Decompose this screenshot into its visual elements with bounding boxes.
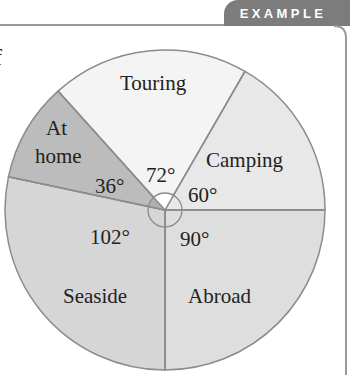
- label-seaside: Seaside: [63, 286, 127, 307]
- angle-seaside: 102°: [90, 227, 130, 248]
- pie-chart: [0, 0, 350, 375]
- label-at-home-line1: At: [46, 118, 67, 139]
- angle-camping: 60°: [188, 185, 217, 206]
- slice-seaside: [5, 177, 165, 370]
- label-camping: Camping: [206, 150, 283, 171]
- label-abroad: Abroad: [188, 286, 251, 307]
- label-touring: Touring: [120, 73, 186, 94]
- label-at-home-line2: home: [35, 146, 82, 167]
- angle-touring: 72°: [146, 165, 175, 186]
- angle-at-home: 36°: [95, 176, 124, 197]
- angle-abroad: 90°: [180, 229, 209, 250]
